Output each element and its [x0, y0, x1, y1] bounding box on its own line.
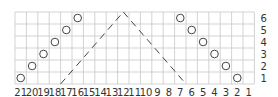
yarn-over-icon [17, 74, 25, 82]
yarn-over-icon [222, 62, 230, 70]
row-label: 1 [260, 73, 266, 84]
yarn-over-icon [234, 74, 242, 82]
row-label: 5 [260, 25, 266, 36]
column-label: 1 [246, 87, 252, 97]
yarn-over-icon [177, 14, 185, 22]
row-label: 6 [260, 13, 266, 24]
column-label: 2 [234, 87, 240, 97]
yarn-over-icon [188, 26, 196, 34]
column-label: 9 [154, 87, 160, 97]
column-label: 6 [189, 87, 195, 97]
column-labels: 212019181716151413121110987654321 [14, 87, 252, 97]
row-label: 4 [260, 37, 266, 48]
column-label: 8 [166, 87, 172, 97]
row-labels: 123456 [260, 13, 266, 84]
yarn-over-icon [40, 50, 48, 58]
column-label: 7 [177, 87, 183, 97]
column-label: 10 [140, 87, 153, 97]
chart-grid [15, 12, 254, 84]
column-label: 4 [211, 87, 217, 97]
knitting-chart: 123456 212019181716151413121110987654321 [0, 0, 278, 97]
column-label: 5 [200, 87, 206, 97]
yarn-over-icon [199, 38, 207, 46]
row-label: 2 [260, 61, 266, 72]
yarn-over-icon [51, 38, 59, 46]
yarn-over-icon [74, 14, 82, 22]
yarn-over-icon [211, 50, 219, 58]
yarn-over-icon [63, 26, 71, 34]
yarn-over-icon [28, 62, 36, 70]
row-label: 3 [260, 49, 266, 60]
column-label: 3 [223, 87, 229, 97]
